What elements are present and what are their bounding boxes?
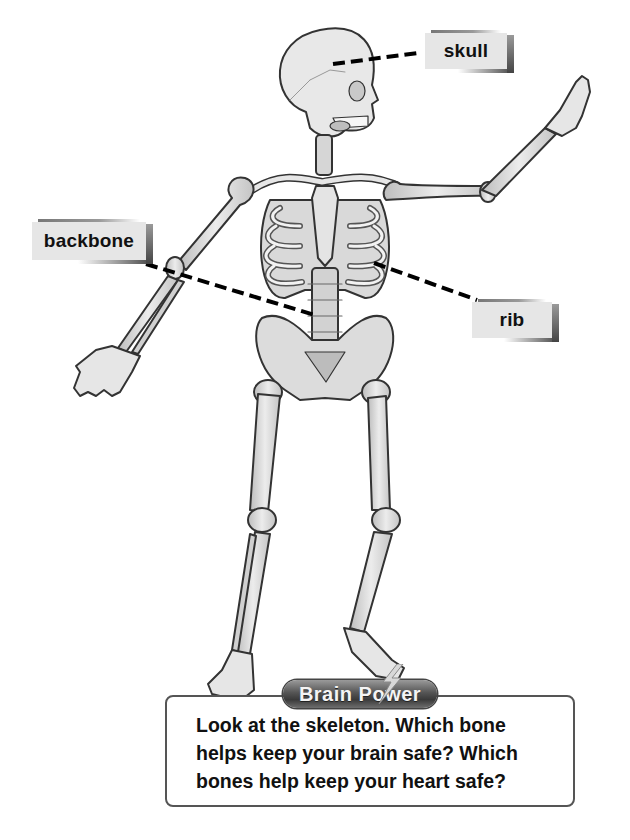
left-hand <box>74 346 140 396</box>
right-arm <box>384 76 590 202</box>
skeleton-labeling-page: skull backbone rib Look at the skeleton.… <box>0 0 630 840</box>
label-shadow <box>78 260 153 264</box>
backbone-label: backbone <box>32 222 146 260</box>
question-line-3: bones help keep your heart safe? <box>196 767 566 795</box>
brain-power-box: Look at the skeleton. Which bone helps k… <box>165 695 575 807</box>
brain-power-header: Brain Power <box>283 680 437 708</box>
skull-bone <box>280 28 378 136</box>
skull-label: skull <box>425 33 507 69</box>
backbone-bone <box>308 268 342 344</box>
lightning-bolt-icon <box>375 664 405 704</box>
label-shadow <box>458 69 514 73</box>
question-line-1: Look at the skeleton. Which bone <box>196 711 566 739</box>
question-line-2: helps keep your brain safe? Which <box>196 739 566 767</box>
right-hand <box>545 76 590 136</box>
left-foot <box>208 650 254 698</box>
left-leg <box>208 380 282 698</box>
skull-label-text: skull <box>444 40 488 62</box>
rib-label-text: rib <box>500 309 525 331</box>
right-leg <box>344 380 404 680</box>
brain-power-question: Look at the skeleton. Which bone helps k… <box>196 711 566 795</box>
rib-label: rib <box>472 302 552 338</box>
rib-leader-line <box>374 263 477 300</box>
backbone-label-text: backbone <box>44 230 134 252</box>
neck-vertebrae <box>316 135 332 175</box>
label-shadow <box>504 338 559 342</box>
